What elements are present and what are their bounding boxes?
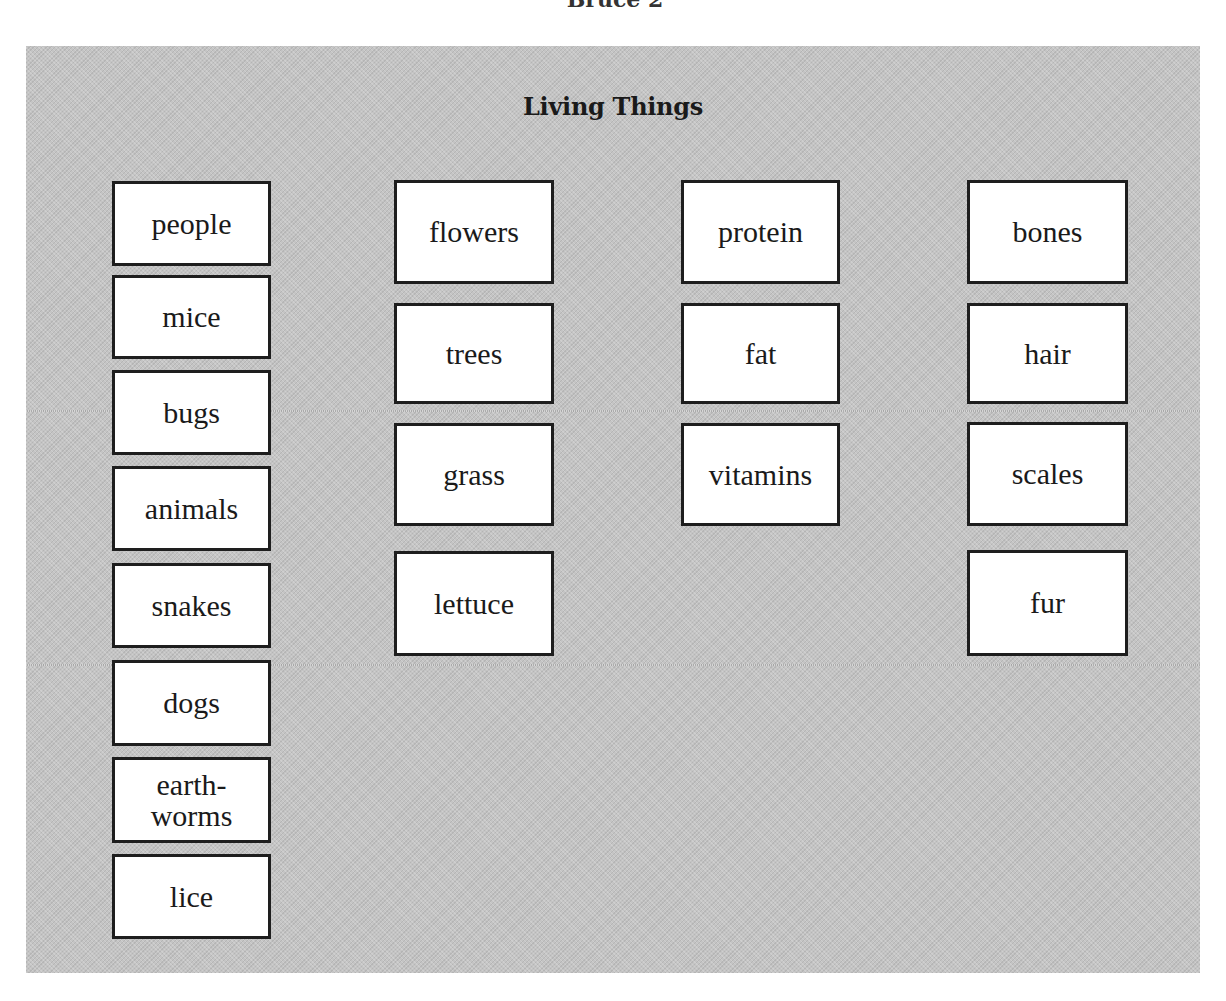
word-card-vitamins[interactable]: vitamins (681, 423, 840, 526)
word-card-snakes[interactable]: snakes (112, 563, 271, 648)
word-card-hair[interactable]: hair (967, 303, 1128, 404)
word-card-animals[interactable]: animals (112, 466, 271, 551)
word-card-mice[interactable]: mice (112, 275, 271, 359)
word-card-grass[interactable]: grass (394, 423, 554, 526)
word-card-lice[interactable]: lice (112, 854, 271, 939)
word-card-dogs[interactable]: dogs (112, 660, 271, 746)
word-card-people[interactable]: people (112, 181, 271, 266)
word-card-fat[interactable]: fat (681, 303, 840, 404)
cut-off-heading: Bruce 2 (540, 0, 690, 12)
panel-title: Living Things (26, 92, 1200, 121)
word-card-flowers[interactable]: flowers (394, 180, 554, 284)
word-card-earthworms[interactable]: earth- worms (112, 757, 271, 843)
word-card-trees[interactable]: trees (394, 303, 554, 404)
word-card-scales[interactable]: scales (967, 422, 1128, 526)
word-card-bugs[interactable]: bugs (112, 370, 271, 455)
word-card-protein[interactable]: protein (681, 180, 840, 284)
word-card-lettuce[interactable]: lettuce (394, 551, 554, 656)
word-card-bones[interactable]: bones (967, 180, 1128, 284)
word-card-fur[interactable]: fur (967, 550, 1128, 656)
